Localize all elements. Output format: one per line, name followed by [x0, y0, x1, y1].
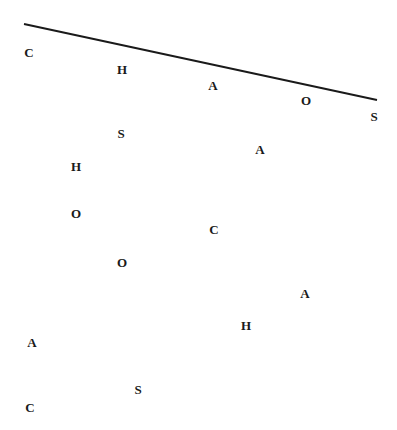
letter: O: [71, 207, 81, 220]
letter: A: [208, 79, 217, 92]
letter: H: [117, 63, 127, 76]
letter: A: [27, 336, 36, 349]
letter: C: [24, 46, 33, 59]
letter: H: [241, 319, 251, 332]
letter-canvas: C H A O S S A H O C O A H A S C: [0, 0, 397, 430]
letter: O: [301, 94, 311, 107]
letter: A: [255, 143, 264, 156]
letter: C: [209, 223, 218, 236]
letter: S: [370, 110, 377, 123]
letter: A: [300, 287, 309, 300]
letter: O: [117, 256, 127, 269]
slanted-line: [0, 0, 397, 430]
letter: S: [134, 383, 141, 396]
letter: C: [25, 401, 34, 414]
letter: S: [117, 127, 124, 140]
line-segment: [24, 24, 377, 100]
letter: H: [71, 160, 81, 173]
